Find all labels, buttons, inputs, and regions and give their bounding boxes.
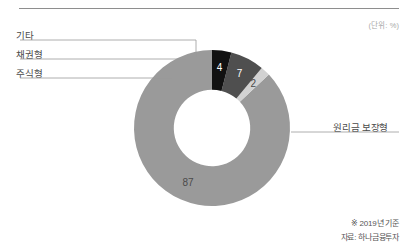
donut-slices — [134, 50, 290, 206]
slice-value-principal_guaranteed: 87 — [182, 177, 194, 188]
slice-value-etc: 4 — [217, 62, 223, 73]
slice-value-stock: 2 — [251, 78, 257, 89]
slice-value-bond: 7 — [237, 68, 243, 79]
donut-chart: 87274 — [0, 0, 415, 252]
chart-figure: (단위: %) 기타 채권형 주식형 원리금 보장형 ※ 2019년 기준 자료… — [0, 0, 415, 252]
leader-line-etc — [20, 40, 196, 57]
